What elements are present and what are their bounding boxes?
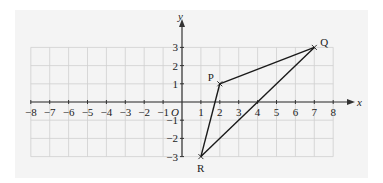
x-tick-label: 4 — [255, 106, 261, 118]
x-tick-label: −2 — [138, 106, 150, 118]
y-axis-label: y — [177, 10, 183, 22]
coordinate-diagram: xyO −8−7−6−5−4−3−2−112345678321−1−2−3 PQ… — [0, 0, 383, 183]
x-tick-label: 3 — [236, 106, 242, 118]
x-tick-label: −4 — [101, 106, 113, 118]
x-tick-label: −3 — [119, 106, 131, 118]
x-tick-label: −8 — [25, 106, 37, 118]
x-tick-label: 2 — [217, 106, 223, 118]
point-q-label: Q — [320, 36, 328, 48]
x-tick-label: −6 — [63, 106, 75, 118]
x-tick-label: 8 — [330, 106, 336, 118]
y-tick-label: −3 — [166, 151, 178, 163]
x-tick-label: −5 — [82, 106, 94, 118]
y-tick-label: 1 — [173, 78, 179, 90]
x-tick-label: 5 — [274, 106, 280, 118]
x-tick-label: 7 — [312, 106, 318, 118]
x-tick-label: 6 — [293, 106, 299, 118]
y-tick-label: −1 — [166, 114, 178, 126]
y-tick-label: 3 — [173, 41, 179, 53]
panel-background — [15, 10, 368, 178]
x-tick-label: −7 — [44, 106, 56, 118]
x-axis-label: x — [356, 96, 362, 108]
y-tick-label: 2 — [173, 60, 179, 72]
x-tick-label: 1 — [198, 106, 204, 118]
point-p-label: P — [208, 71, 214, 83]
y-tick-label: −2 — [166, 132, 178, 144]
point-r-label: R — [197, 162, 205, 174]
